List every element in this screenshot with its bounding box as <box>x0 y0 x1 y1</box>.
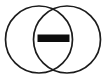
venn-diagram-figure <box>0 0 106 81</box>
venn-diagram-canvas <box>0 0 106 81</box>
intersection-minus-bar-icon <box>38 35 70 43</box>
